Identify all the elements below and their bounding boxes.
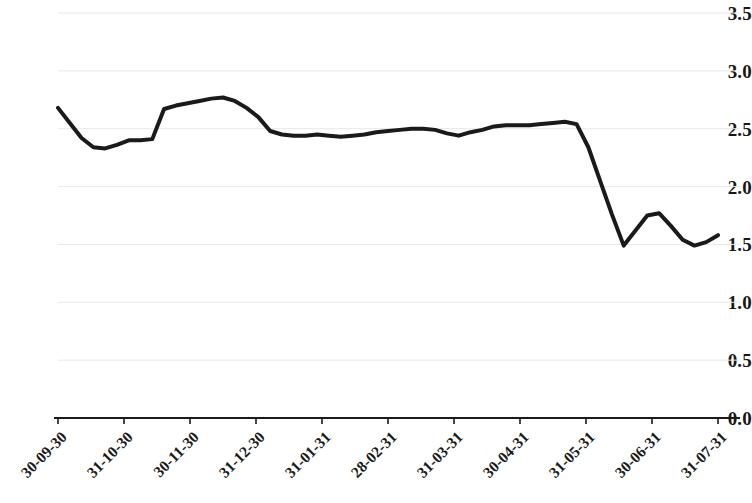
data-series-line bbox=[58, 97, 718, 245]
line-chart: 3.53.02.52.01.51.00.50.0 30-09-3031-10-3… bbox=[0, 0, 752, 503]
chart-plot-area bbox=[0, 0, 752, 503]
